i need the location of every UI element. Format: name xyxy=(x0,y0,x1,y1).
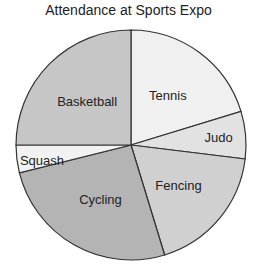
slice-label-cycling: Cycling xyxy=(79,192,122,207)
slice-label-tennis: Tennis xyxy=(149,88,187,103)
pie-slice-basketball xyxy=(16,30,131,145)
slice-label-fencing: Fencing xyxy=(155,178,201,193)
slice-label-judo: Judo xyxy=(205,130,233,145)
slice-label-basketball: Basketball xyxy=(57,94,117,109)
slice-label-squash: Squash xyxy=(20,153,64,168)
pie-chart: TennisJudoFencingCyclingSquashBasketball xyxy=(0,0,257,276)
